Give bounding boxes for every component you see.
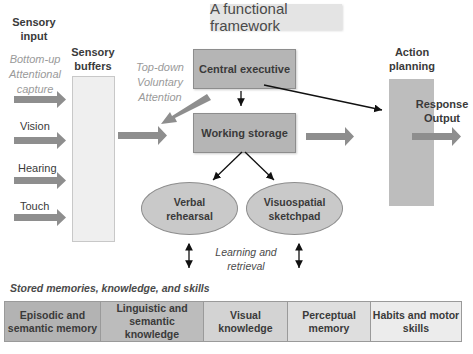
cell-line: knowledge bbox=[218, 322, 272, 335]
storage-to-visuospatial-arrow bbox=[245, 152, 274, 180]
cell-line: Habits and motor bbox=[373, 309, 459, 322]
linguistic-semantic-knowledge-cell: Linguistic andsemanticknowledge bbox=[100, 301, 204, 342]
cell-line: skills bbox=[373, 322, 459, 335]
fat-arrows bbox=[14, 91, 461, 226]
stored-memories-row: Episodic andsemantic memory Linguistic a… bbox=[4, 301, 462, 342]
cell-line: semantic bbox=[116, 315, 187, 328]
cell-line: Episodic and bbox=[8, 309, 97, 322]
habits-motor-skills-cell: Habits and motorskills bbox=[370, 301, 462, 342]
exec-to-action-arrow bbox=[264, 85, 382, 110]
hearing-arrow bbox=[14, 172, 66, 189]
cell-line: knowledge bbox=[116, 328, 187, 341]
perceptual-memory-cell: Perceptualmemory bbox=[287, 301, 371, 342]
stored-memories-heading: Stored memories, knowledge, and skills bbox=[10, 281, 210, 295]
storage-to-action-arrow bbox=[306, 127, 354, 146]
cell-line: semantic memory bbox=[8, 322, 97, 335]
cell-line: Visual bbox=[218, 309, 272, 322]
storage-to-verbal-arrow bbox=[213, 152, 242, 180]
buffers-to-storage-arrow bbox=[118, 126, 167, 145]
vision-arrow bbox=[14, 132, 66, 149]
cell-line: memory bbox=[302, 322, 356, 335]
cell-line: Linguistic and bbox=[116, 302, 187, 315]
visual-knowledge-cell: Visualknowledge bbox=[203, 301, 288, 342]
cell-line: Perceptual bbox=[302, 309, 356, 322]
bottom-up-arrow bbox=[14, 91, 66, 108]
touch-arrow bbox=[14, 209, 66, 226]
episodic-semantic-memory-cell: Episodic andsemantic memory bbox=[4, 301, 101, 342]
response-output-arrow bbox=[412, 127, 461, 146]
top-down-attention-arrow bbox=[161, 94, 211, 124]
